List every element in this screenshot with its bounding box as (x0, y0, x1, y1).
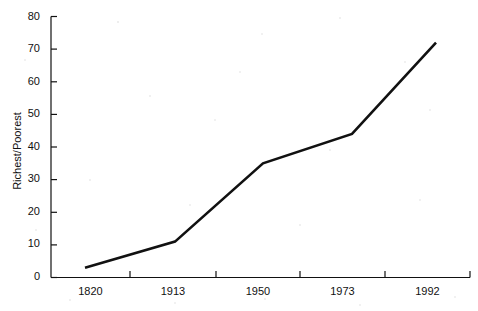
y-tick-marks (51, 17, 57, 278)
chart-figure: Richest/Poorest 80 70 60 50 40 30 20 10 … (0, 0, 478, 311)
x-tick-marks (130, 271, 470, 278)
data-series-line (85, 43, 436, 268)
plot-area (0, 0, 478, 311)
